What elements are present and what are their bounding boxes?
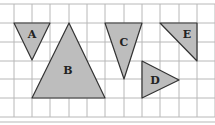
triangle-label: D xyxy=(150,74,160,87)
triangle-c: C xyxy=(105,23,142,79)
triangle-label: A xyxy=(27,28,37,41)
grid-lines xyxy=(0,4,215,122)
triangles-grid-figure: ABCDE xyxy=(0,0,215,125)
triangle-label: C xyxy=(120,36,129,49)
triangle-label: E xyxy=(183,28,191,41)
triangle-shape xyxy=(105,23,142,79)
triangle-label: B xyxy=(63,64,72,77)
